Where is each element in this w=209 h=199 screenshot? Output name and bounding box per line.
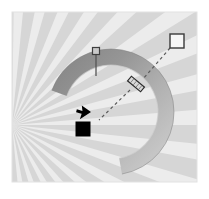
white-square-marker[interactable] bbox=[170, 34, 184, 48]
figure-canvas bbox=[0, 0, 209, 199]
black-square-marker[interactable] bbox=[76, 122, 90, 136]
pin-head-square[interactable] bbox=[93, 48, 100, 55]
screenshot-stage bbox=[0, 0, 209, 199]
